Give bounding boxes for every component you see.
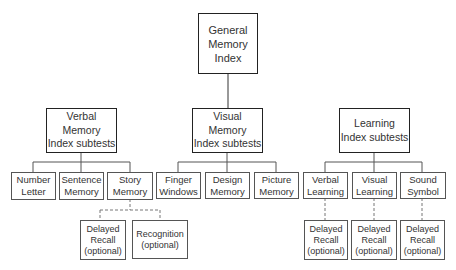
visual-memory-index-box: Visual Memory Index subtests [192,108,263,153]
optional-delayed-recall-visual-learning: Delayed Recall (optional) [351,220,397,260]
subtest-number-letter: Number Letter [11,172,56,200]
optional-recognition-story: Recognition (optional) [132,220,188,259]
subtest-picture-memory: Picture Memory [254,172,299,199]
subtest-visual-learning: Visual Learning [352,172,397,199]
subtest-story-memory: Story Memory [107,172,153,200]
verbal-memory-index-box: Verbal Memory Index subtests [46,108,117,153]
subtest-verbal-learning: Verbal Learning [303,172,348,199]
subtest-design-memory: Design Memory [205,172,250,199]
optional-delayed-recall-verbal-learning: Delayed Recall (optional) [304,220,348,260]
learning-index-box: Learning Index subtests [339,108,410,153]
optional-delayed-recall-sound-symbol: Delayed Recall (optional) [400,220,445,260]
optional-delayed-recall-story: Delayed Recall (optional) [80,220,126,260]
subtest-sound-symbol: Sound Symbol [400,172,446,199]
subtest-finger-windows: Finger Windows [156,172,201,199]
general-memory-index-box: General Memory Index [198,13,258,74]
subtest-sentence-memory: Sentence Memory [59,172,104,200]
